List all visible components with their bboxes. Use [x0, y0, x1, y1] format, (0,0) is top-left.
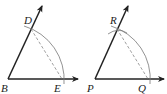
dashed-segment-rq	[117, 29, 148, 79]
label-q: Q	[138, 82, 146, 94]
diagram-canvas: B D E P R Q	[0, 0, 167, 94]
arc-r-q	[111, 26, 150, 84]
figure-angle-b: B D E	[1, 6, 78, 94]
arc-d-e	[24, 26, 64, 84]
angle-copy-diagram: B D E P R Q	[0, 0, 167, 94]
figure-angle-p: P R Q	[86, 6, 164, 94]
label-b: B	[1, 82, 8, 94]
label-r: R	[109, 14, 117, 26]
label-d: D	[23, 14, 32, 26]
label-p: P	[86, 82, 94, 94]
label-e: E	[53, 82, 61, 94]
dashed-segment-de	[31, 29, 62, 79]
